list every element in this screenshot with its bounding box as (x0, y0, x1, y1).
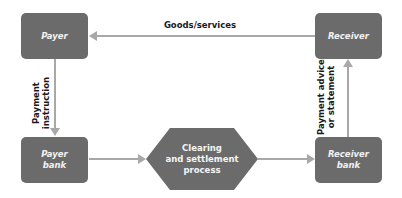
payer-label: Payer (41, 31, 68, 42)
receiver-bank-label: Receiver bank (328, 149, 369, 171)
payer-bank-label: Payer bank (41, 149, 68, 171)
payment-advice-label: Payment advice or statement (316, 57, 338, 137)
payment-instruction-label: Payment instruction (31, 68, 53, 138)
advice-arrow (343, 59, 353, 137)
payer-node: Payer (21, 13, 88, 59)
receiver-node: Receiver (315, 13, 382, 59)
receiver-bank-node: Receiver bank (315, 137, 382, 183)
from-clearing-arrow (258, 154, 315, 164)
goods-services-label: Goods/services (150, 20, 250, 30)
to-clearing-arrow (89, 154, 146, 164)
payer-bank-node: Payer bank (21, 137, 88, 183)
clearing-label: Clearing and settlement process (165, 143, 238, 176)
goods-arrow (89, 31, 315, 41)
clearing-node: Clearing and settlement process (146, 128, 258, 190)
receiver-label: Receiver (328, 31, 369, 42)
